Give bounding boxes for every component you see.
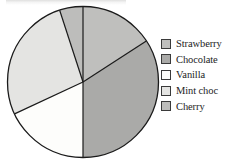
pie-chart-figure: Strawberry Chocolate Vanilla Mint choc C… bbox=[0, 0, 238, 165]
legend-swatch-chocolate bbox=[161, 54, 171, 64]
legend-label-cherry: Cherry bbox=[176, 101, 205, 112]
legend-label-chocolate: Chocolate bbox=[176, 54, 218, 65]
legend-item-strawberry: Strawberry bbox=[161, 36, 238, 52]
pie-chart-graphic bbox=[0, 0, 170, 165]
legend-label-strawberry: Strawberry bbox=[176, 38, 222, 49]
legend-label-vanilla: Vanilla bbox=[176, 69, 205, 80]
legend-item-mint-choc: Mint choc bbox=[161, 83, 238, 99]
legend-swatch-strawberry bbox=[161, 39, 171, 49]
legend-swatch-vanilla bbox=[161, 70, 171, 80]
legend-item-cherry: Cherry bbox=[161, 98, 238, 114]
legend-item-chocolate: Chocolate bbox=[161, 52, 238, 68]
legend-label-mint-choc: Mint choc bbox=[176, 85, 218, 96]
legend-swatch-cherry bbox=[161, 101, 171, 111]
chart-legend: Strawberry Chocolate Vanilla Mint choc C… bbox=[161, 36, 238, 114]
legend-swatch-mint-choc bbox=[161, 86, 171, 96]
legend-item-vanilla: Vanilla bbox=[161, 67, 238, 83]
